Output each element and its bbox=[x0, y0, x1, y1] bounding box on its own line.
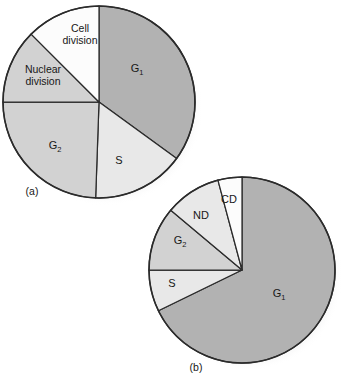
pie-panel-a bbox=[3, 6, 195, 198]
slice-label-panel-b-cd: CD bbox=[221, 193, 237, 205]
panel-label-panel-a: (a) bbox=[26, 185, 39, 197]
pie-chart-figure: G1SG2NucleardivisionCelldivision(a)G1SG2… bbox=[0, 0, 347, 379]
slice-label-panel-b-s: S bbox=[168, 277, 175, 289]
panel-label-panel-b: (b) bbox=[190, 361, 203, 373]
slice-label-panel-a-nuclear-division: Nucleardivision bbox=[25, 63, 62, 87]
slice-label-panel-a-s: S bbox=[115, 154, 122, 166]
pie-slices-layer bbox=[3, 6, 335, 363]
pie-panel-b bbox=[149, 177, 335, 363]
slice-label-panel-b-nd: ND bbox=[193, 209, 209, 221]
figure-root: G1SG2NucleardivisionCelldivision(a)G1SG2… bbox=[0, 0, 347, 379]
